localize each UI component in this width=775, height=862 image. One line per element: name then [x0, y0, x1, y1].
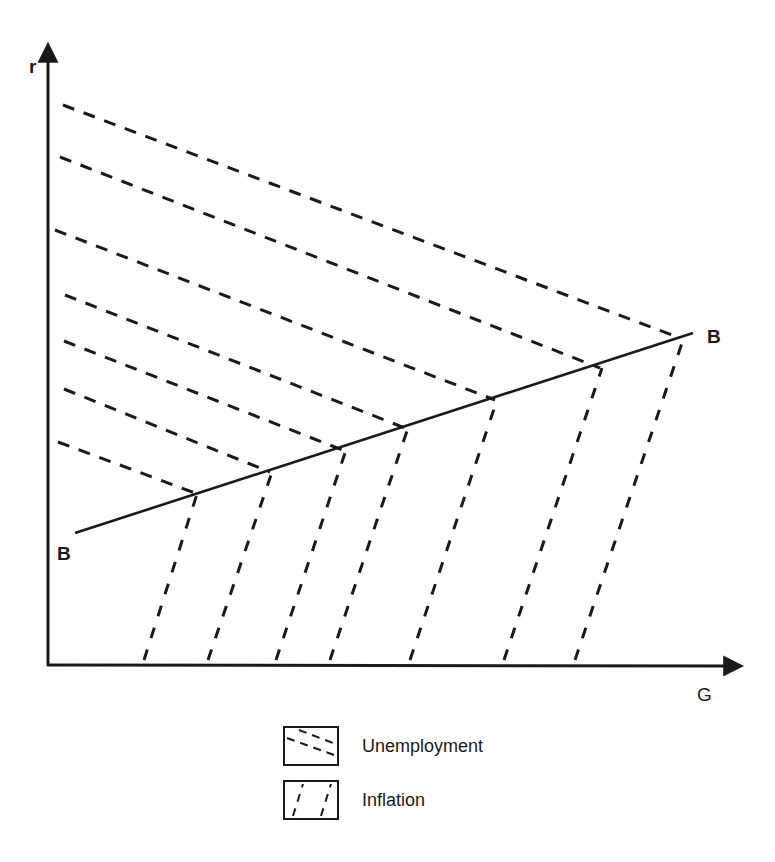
unemployment-dashed-line: [55, 230, 495, 400]
inflation-lines: [144, 337, 684, 660]
inflation-dashed-line: [276, 450, 346, 660]
legend-label-unemployment: Unemployment: [362, 736, 483, 757]
inflation-dashed-line: [144, 494, 197, 660]
unemployment-dashed-line: [64, 389, 270, 472]
x-axis: [47, 665, 740, 666]
inflation-dashed-line: [575, 337, 684, 660]
y-axis-label: r: [29, 56, 36, 78]
x-axis-label: G: [697, 684, 712, 706]
bb-start-label: B: [57, 543, 71, 565]
legend-swatch-inflation: [283, 780, 339, 820]
unemployment-dashed-line: [58, 442, 195, 493]
unemployment-dashed-line: [64, 341, 345, 451]
bb-end-label: B: [707, 326, 721, 348]
inflation-dashed-line: [504, 368, 602, 660]
unemployment-dashed-line: [63, 105, 680, 338]
policy-diagram: [0, 0, 775, 862]
upward-dash-icon: [285, 782, 337, 818]
inflation-dashed-line: [208, 472, 272, 660]
downward-dash-icon: [285, 728, 337, 764]
legend-label-inflation: Inflation: [362, 790, 425, 811]
inflation-dashed-line: [410, 400, 497, 660]
unemployment-lines: [55, 105, 680, 493]
legend-swatch-unemployment: [283, 726, 339, 766]
